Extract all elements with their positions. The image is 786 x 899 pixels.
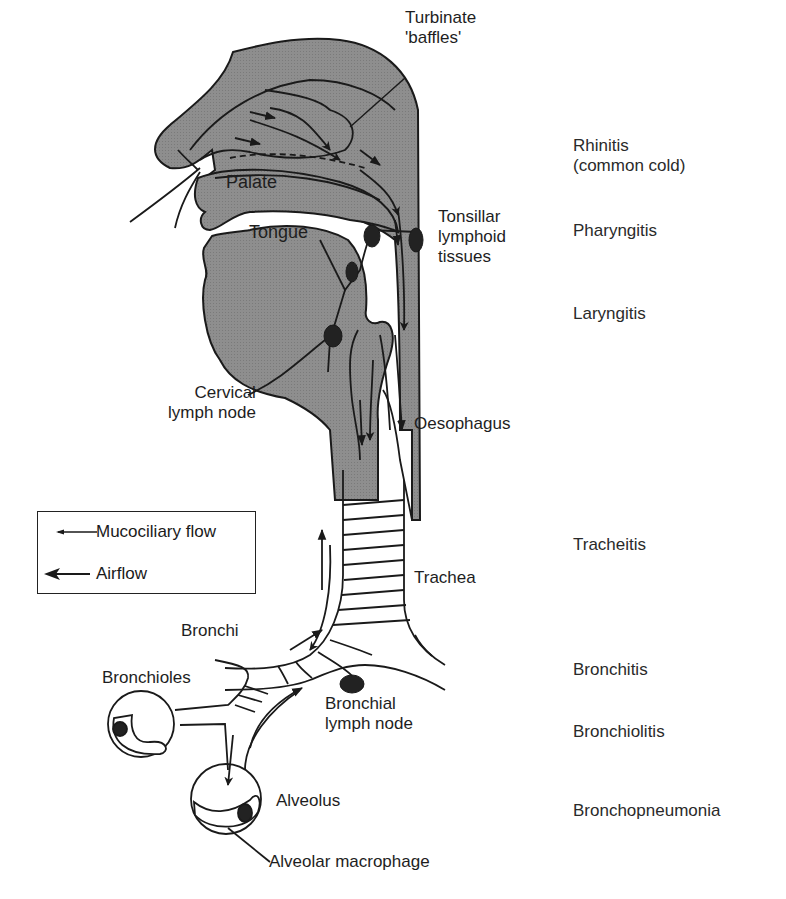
label-bronchioles: Bronchioles	[102, 668, 191, 688]
bronchioles	[108, 660, 302, 862]
label-cervical-node: Cervical lymph node	[168, 383, 256, 423]
condition-pharyngitis: Pharyngitis	[573, 221, 657, 241]
head-tissue	[155, 39, 420, 520]
condition-tracheitis: Tracheitis	[573, 535, 646, 555]
condition-bronchopneumonia: Bronchopneumonia	[573, 801, 720, 821]
tonsil-node-a	[364, 225, 380, 247]
label-trachea: Trachea	[414, 568, 476, 588]
condition-bronchiolitis: Bronchiolitis	[573, 722, 665, 742]
condition-bronchitis: Bronchitis	[573, 660, 648, 680]
respiratory-tract-diagram	[0, 0, 786, 899]
label-bronchi: Bronchi	[181, 621, 239, 641]
legend-item-airflow: Airflow	[38, 564, 88, 584]
label-bronchial-node: Bronchial lymph node	[325, 694, 413, 734]
thick-arrow-left-icon	[42, 564, 92, 584]
legend-box: Mucociliary flow Airflow	[37, 511, 256, 594]
label-tonsillar: Tonsillar lymphoid tissues	[438, 207, 506, 267]
legend-item-mucociliary: Mucociliary flow	[38, 522, 88, 542]
label-oesophagus: Oesophagus	[414, 414, 510, 434]
label-turbinate: Turbinate 'baffles'	[405, 8, 476, 48]
label-palate: Palate	[226, 172, 277, 192]
tonsil-node-c	[346, 262, 358, 282]
thin-arrow-left-icon	[52, 522, 102, 542]
label-tongue: Tongue	[249, 222, 308, 242]
label-alveolar-macrophage: Alveolar macrophage	[269, 852, 430, 872]
label-alveolus: Alveolus	[276, 791, 340, 811]
cervical-node	[324, 325, 342, 347]
condition-rhinitis: Rhinitis (common cold)	[573, 136, 685, 176]
condition-laryngitis: Laryngitis	[573, 304, 646, 324]
bronchial-node	[340, 675, 364, 693]
tonsil-node-b	[409, 228, 423, 252]
